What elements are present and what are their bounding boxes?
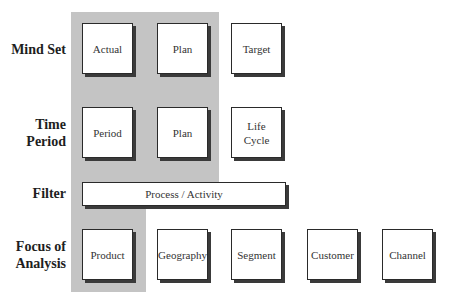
row-label-time-period-line1: Time [26,116,66,133]
box-customer: Customer [307,229,358,280]
box-actual: Actual [82,23,133,74]
filter-bar-process-activity: Process / Activity [82,182,286,206]
row-label-mind-set: Mind Set [11,41,66,58]
row-label-focus-line1: Focus of [15,238,66,255]
box-segment: Segment [231,229,282,280]
row-label-focus-line2: Analysis [15,255,66,272]
life-cycle-line1: Life [247,119,265,133]
row-label-time-period: Time Period [26,116,66,150]
row-label-time-period-line2: Period [26,133,66,150]
box-channel: Channel [382,229,433,280]
box-product: Product [82,229,133,280]
box-plan-mindset: Plan [157,23,208,74]
box-target: Target [231,23,282,74]
box-plan-time: Plan [157,107,208,158]
box-geography: Geography [157,229,208,280]
box-life-cycle: Life Cycle [231,107,282,158]
row-label-focus-of-analysis: Focus of Analysis [15,238,66,272]
life-cycle-line2: Cycle [244,133,270,147]
box-period: Period [82,107,133,158]
row-label-filter: Filter [33,185,66,202]
